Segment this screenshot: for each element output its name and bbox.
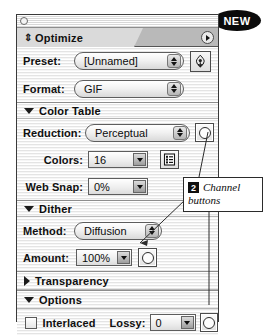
lossy-channel-button[interactable] [200,313,218,332]
lossy-dropdown-arrow-icon[interactable] [181,316,194,329]
reduction-popup[interactable]: Perceptual [85,124,190,142]
row-reduction: Reduction: Perceptual [17,119,218,146]
colors-combo[interactable]: 16 [88,151,148,168]
tab-optimize-label: Optimize [35,32,83,44]
row-format: Format: GIF [17,75,218,102]
web-snap-value: 0% [94,181,110,193]
lossy-label: Lossy: [110,317,146,329]
new-feature-badge: NEW [213,10,261,31]
amount-combo[interactable]: 100% [76,249,132,266]
colors-dropdown-arrow-icon[interactable] [133,153,146,166]
section-color-table[interactable]: Color Table [17,102,218,119]
row-colors: Colors: 16 [17,146,218,173]
color-table-list-icon [163,153,176,166]
disclosure-triangle-right-icon[interactable] [24,276,30,286]
new-feature-badge-label: NEW [223,15,250,27]
web-snap-label: Web Snap: [23,181,83,193]
reduction-label: Reduction: [23,127,83,139]
method-value: Diffusion [84,225,127,237]
channel-mask-icon [142,252,154,264]
palette-tabstrip: ⇕ Optimize [17,28,218,47]
section-options[interactable]: Options [17,290,218,309]
section-options-label: Options [39,294,82,306]
lossy-combo[interactable]: 0 [150,314,196,331]
close-box-icon[interactable] [20,17,28,25]
format-label: Format: [23,83,71,95]
web-snap-dropdown-arrow-icon[interactable] [133,180,146,193]
drag-grip-icon: ⇕ [24,33,31,42]
row-method: Method: Diffusion [17,217,218,244]
colors-value: 16 [94,154,106,166]
tab-optimize[interactable]: ⇕ Optimize [17,28,135,47]
section-color-table-label: Color Table [39,105,101,117]
channel-mask-icon [199,127,211,139]
amount-dropdown-arrow-icon[interactable] [117,251,130,264]
row-options: Interlaced Lossy: 0 [17,309,218,335]
amount-value: 100% [82,252,110,264]
method-label: Method: [23,225,71,237]
section-dither-label: Dither [39,203,72,215]
row-amount: Amount: 100% [17,244,218,271]
colors-label: Colors: [23,154,83,166]
interlaced-checkbox[interactable] [25,317,37,329]
callout-box: 2 Channel buttons [183,177,263,212]
section-transparency-label: Transparency [35,275,109,287]
reduction-stepper-arrows-icon[interactable] [173,126,187,140]
web-snap-combo[interactable]: 0% [88,178,148,195]
format-value: GIF [84,83,102,95]
format-stepper-arrows-icon[interactable] [167,82,181,96]
amount-channel-button[interactable] [138,248,157,267]
optimize-palette-window: ⇕ Optimize Preset: [Unnamed] [16,14,219,322]
lossy-value: 0 [156,317,162,329]
preset-value: [Unnamed] [84,55,138,67]
reduction-channel-button[interactable] [195,123,214,142]
disclosure-triangle-down-icon[interactable] [24,206,34,212]
format-popup[interactable]: GIF [74,80,184,98]
row-preset: Preset: [Unnamed] [17,47,218,75]
method-popup[interactable]: Diffusion [74,222,162,240]
callout-subtitle: buttons [188,194,258,207]
palette-titlebar[interactable] [17,15,218,28]
channel-mask-icon [203,317,215,329]
droplet-save-icon [193,54,208,69]
callout-number: 2 [188,182,199,193]
preset-label: Preset: [23,55,71,67]
reduction-value: Perceptual [95,127,148,139]
section-transparency[interactable]: Transparency [17,271,218,290]
disclosure-triangle-down-icon[interactable] [24,297,34,303]
preset-popup[interactable]: [Unnamed] [74,52,184,70]
disclosure-triangle-down-icon[interactable] [24,108,34,114]
amount-label: Amount: [23,252,75,264]
preset-stepper-arrows-icon[interactable] [167,54,181,68]
palette-menu-arrow-icon[interactable] [201,31,214,44]
save-preset-button[interactable] [190,51,211,72]
method-stepper-arrows-icon[interactable] [145,224,159,238]
color-table-list-button[interactable] [160,150,179,169]
callout-title: Channel [203,181,240,194]
interlaced-label: Interlaced [43,317,96,329]
